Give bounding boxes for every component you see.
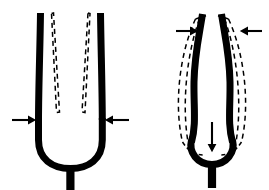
fork-left-tine (39, 13, 41, 120)
fork-right-tine (101, 13, 103, 120)
fork-stem (208, 162, 216, 188)
fork-stem (66, 166, 74, 190)
figure-canvas (0, 0, 269, 190)
tuning-fork-figure (0, 0, 269, 190)
